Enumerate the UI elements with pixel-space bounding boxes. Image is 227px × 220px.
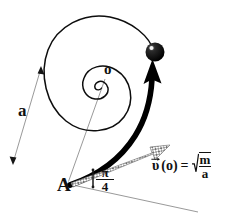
- dimension-arrowhead-bottom: [10, 156, 17, 165]
- radicand-fraction: m a: [199, 152, 212, 181]
- spiral-inner-curl: [95, 88, 101, 90]
- fraction-denominator: a: [201, 167, 210, 180]
- velocity-symbol-group: υ: [152, 159, 159, 173]
- square-root-group: m a: [192, 152, 212, 181]
- angle-numerator: π: [96, 166, 114, 180]
- vertex-label-A: A: [57, 175, 71, 194]
- fraction-numerator: m: [199, 153, 212, 167]
- baseline-reference-line: [68, 184, 198, 212]
- radical-icon: [192, 152, 199, 174]
- particle-highlight: [149, 46, 153, 50]
- angle-denominator: 4: [96, 180, 114, 193]
- equals-sign: =: [180, 159, 190, 173]
- spiral-orbit-figure: a o A π 4 υ (o) = m a: [0, 0, 227, 220]
- vector-arrow-icon: [151, 156, 160, 161]
- angle-label-pi-over-4: π 4: [96, 166, 114, 193]
- spiral-pole-label-o: o: [104, 62, 112, 77]
- velocity-argument: (o): [161, 159, 177, 173]
- velocity-formula: υ (o) = m a: [152, 152, 211, 181]
- radius-dimension-line: [10, 66, 45, 165]
- orbiting-particle: [146, 43, 165, 62]
- logarithmic-spiral: [44, 16, 154, 131]
- radius-label-a: a: [18, 102, 27, 119]
